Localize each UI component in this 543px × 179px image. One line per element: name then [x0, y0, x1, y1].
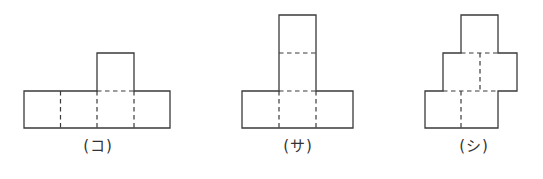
figure-label-ko: (コ) [83, 134, 113, 155]
net-ko [24, 53, 170, 128]
figure-label-sa: (サ) [283, 134, 313, 155]
figure-label-shi: (シ) [459, 134, 489, 155]
net-shi [425, 15, 517, 128]
net-sa [242, 15, 353, 128]
